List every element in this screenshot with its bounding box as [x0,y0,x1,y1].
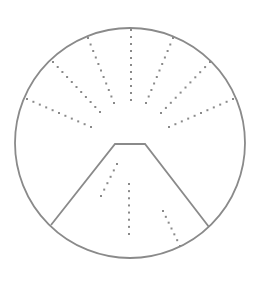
ray-dot [226,101,228,103]
ray-dot [64,115,66,117]
ray-dot [90,101,92,103]
ray-dot [52,61,54,63]
ray-dot [128,233,130,235]
inner-ray-right [162,210,181,247]
ray-dot [128,183,130,185]
ray-dot [128,204,130,206]
ray-dot [130,43,132,45]
ray-dot [165,107,167,109]
ray-dot [130,99,132,101]
ray-dot [26,98,28,100]
ray-dot [66,76,68,78]
ray-dot [57,66,59,68]
ray-dot [130,71,132,73]
ray-dot [130,85,132,87]
ray-dot [168,222,170,224]
inner-ray-center [128,183,130,235]
ray-upper-left [87,37,115,104]
ray-dot [171,228,173,230]
ray-dot [92,50,94,52]
ray-dot [32,101,34,103]
ray-dot [71,81,73,83]
ray-dot [128,197,130,199]
trapezoid-mountain-outline [51,144,209,227]
ray-dot [194,115,196,117]
ray-dot [97,63,99,65]
ray-dot [160,112,162,114]
ray-dot [110,96,112,98]
ray-dot [116,163,118,165]
ray-dot [128,212,130,214]
ray-dot [194,76,196,78]
ray-dot [153,83,155,85]
ray-dot [169,44,171,46]
ray-dot [103,76,105,78]
ray-dot [77,120,79,122]
ray-dot [174,123,176,125]
ray-dot [175,97,177,99]
ray-dot [161,63,163,65]
ray-dot [167,50,169,52]
ray-dot [130,64,132,66]
ray-dot [106,182,108,184]
ray-dot [181,120,183,122]
ray-lower-left [26,98,92,128]
ray-dot [165,216,167,218]
circle-mountain-sunburst-diagram [0,0,260,285]
ray-dot [173,233,175,235]
ray-dot [61,71,63,73]
ray-lower-right [168,98,234,128]
ray-dot [168,126,170,128]
ray-dot [145,102,147,104]
ray-top-center [130,29,132,101]
ray-dot [76,86,78,88]
ray-dot [204,66,206,68]
ray-dot [172,37,174,39]
ray-dot [206,109,208,111]
diagram-canvas [0,0,260,285]
ray-dot [80,91,82,93]
ray-upper-right [145,37,174,104]
ray-dot [128,226,130,228]
ray-dot [185,87,187,89]
ray-dot [200,112,202,114]
ray-dot [180,92,182,94]
ray-dot [71,118,73,120]
ray-dot [150,89,152,91]
ray-dot [87,37,89,39]
ray-dot [100,70,102,72]
ray-dot [130,78,132,80]
ray-dot [95,57,97,59]
ray-dot [199,71,201,73]
ray-dot [113,169,115,171]
ray-dot [189,81,191,83]
upper-dotted-rays [26,29,234,128]
ray-middle-right [160,61,211,114]
ray-dot [100,195,102,197]
ray-dot [179,245,181,247]
ray-dot [176,239,178,241]
ray-dot [130,29,132,31]
ray-dot [164,57,166,59]
ray-dot [156,76,158,78]
ray-dot [105,83,107,85]
ray-dot [113,102,115,104]
ray-dot [130,36,132,38]
ray-dot [162,210,164,212]
ray-dot [94,106,96,108]
ray-dot [159,70,161,72]
ray-dot [128,219,130,221]
ray-dot [130,50,132,52]
ray-dot [108,89,110,91]
ray-dot [128,190,130,192]
ray-dot [110,176,112,178]
ray-dot [209,61,211,63]
ray-dot [148,96,150,98]
ray-dot [39,104,41,106]
ray-dot [130,57,132,59]
ray-dot [45,106,47,108]
ray-dot [130,92,132,94]
ray-dot [84,123,86,125]
ray-dot [85,96,87,98]
ray-dot [232,98,234,100]
